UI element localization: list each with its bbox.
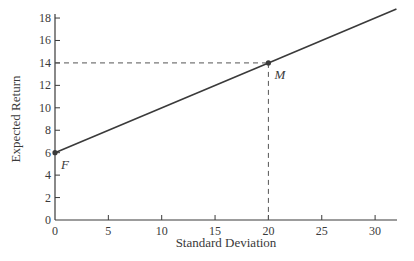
y-tick-label: 8 — [45, 123, 51, 137]
x-tick-label: 5 — [105, 224, 111, 238]
reference-lines — [55, 63, 268, 220]
points: FM — [52, 60, 286, 171]
x-axis-title: Standard Deviation — [176, 235, 277, 250]
x-tick-label: 0 — [52, 224, 58, 238]
capital-market-line-chart: 051015202530024681012141618 FM Standard … — [0, 0, 414, 261]
ticks: 051015202530024681012141618 — [39, 11, 381, 238]
x-tick-label: 10 — [156, 224, 168, 238]
y-tick-label: 6 — [45, 146, 51, 160]
axes — [55, 14, 397, 220]
point-f-marker — [52, 150, 57, 155]
x-tick-label: 25 — [316, 224, 328, 238]
capital-market-line — [55, 9, 396, 153]
y-tick-label: 4 — [45, 168, 51, 182]
series — [55, 9, 396, 153]
y-tick-label: 10 — [39, 101, 51, 115]
y-tick-label: 2 — [45, 191, 51, 205]
y-tick-label: 0 — [45, 213, 51, 227]
x-tick-label: 30 — [369, 224, 381, 238]
point-f-label: F — [60, 157, 70, 172]
point-m-label: M — [273, 67, 286, 82]
y-tick-label: 14 — [39, 56, 51, 70]
y-axis-title: Expected Return — [8, 75, 23, 162]
y-tick-label: 18 — [39, 11, 51, 25]
y-tick-label: 16 — [39, 33, 51, 47]
point-m-marker — [266, 60, 271, 65]
y-tick-label: 12 — [39, 78, 51, 92]
